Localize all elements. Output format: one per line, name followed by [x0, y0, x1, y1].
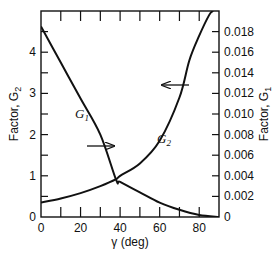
svg-text:0.006: 0.006 [224, 148, 254, 162]
svg-text:20: 20 [74, 221, 88, 235]
g2-curve [41, 11, 213, 203]
svg-text:2: 2 [29, 128, 36, 142]
svg-text:0.008: 0.008 [224, 128, 254, 142]
svg-text:0.012: 0.012 [224, 86, 254, 100]
left-axis-title: Factor, G2 [7, 87, 23, 141]
right-axis-tick-labels: 00.0020.0040.0060.0080.0100.0120.0140.01… [224, 25, 254, 224]
svg-text:3: 3 [29, 86, 36, 100]
g2-curve-label: G2 [157, 131, 171, 148]
svg-text:60: 60 [153, 221, 167, 235]
x-axis-tick-labels: 020406080 [38, 221, 207, 235]
svg-text:4: 4 [29, 45, 36, 59]
svg-text:0.014: 0.014 [224, 66, 254, 80]
chart: 020406080 01234 00.0020.0040.0060.0080.0… [0, 0, 276, 259]
svg-text:0: 0 [29, 210, 36, 224]
g1-curve [41, 26, 219, 217]
svg-text:0.018: 0.018 [224, 25, 254, 39]
right-axis-ticks [212, 32, 219, 197]
svg-text:0.016: 0.016 [224, 45, 254, 59]
svg-text:40: 40 [113, 221, 127, 235]
svg-text:0: 0 [224, 210, 231, 224]
svg-text:0.010: 0.010 [224, 107, 254, 121]
svg-text:0.002: 0.002 [224, 189, 254, 203]
svg-text:0: 0 [38, 221, 45, 235]
svg-text:80: 80 [193, 221, 207, 235]
left-axis-tick-labels: 01234 [29, 45, 36, 224]
x-axis-title: γ (deg) [111, 235, 148, 249]
svg-text:0.004: 0.004 [224, 169, 254, 183]
svg-text:1: 1 [29, 169, 36, 183]
right-axis-title: Factor, G1 [257, 87, 273, 141]
left-axis-ticks [41, 32, 48, 197]
